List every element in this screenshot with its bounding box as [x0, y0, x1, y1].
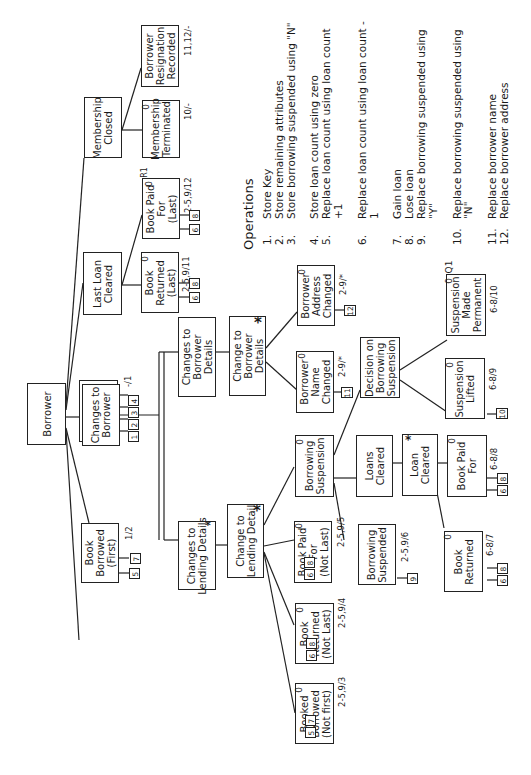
op-ref: 8 [189, 278, 200, 289]
op-ref: 6 [189, 224, 200, 235]
state-label: -/1 [123, 376, 133, 387]
op-ref: 11 [341, 387, 353, 398]
operation-item: 10.Replace borrowing suspended using "N" [452, 0, 476, 245]
operation-item: 5.Replace loan count using loan count +1 [321, 0, 345, 245]
node-membership-closed: Membership Closed [84, 97, 122, 158]
selection-marker: 0 [295, 439, 305, 445]
node-book-borrowed-first: Book Borrowed (First) [81, 523, 119, 583]
op-ref: 9 [407, 573, 418, 584]
state-label: 6-8/10 [489, 285, 499, 313]
op-ref: 2 [128, 419, 139, 430]
op-ref: 8 [306, 638, 317, 649]
state-label: 11,12/- [183, 26, 193, 56]
node-borrowing-suspended: Borrowing Suspended [358, 524, 396, 585]
iteration-marker: * [254, 316, 262, 331]
op-ref: 6 [497, 485, 508, 496]
operation-item: 2.Store remaining attributes [274, 0, 286, 245]
node-book-returned: Book Returned [444, 531, 483, 592]
node-changes-to-borrower-main: Changes to Borrower [82, 384, 120, 446]
state-label: 10/- [183, 103, 193, 120]
node-changes-to-borrower-details: Changes to Borrower Details [178, 317, 216, 397]
selection-marker: 0 [447, 438, 457, 444]
quit-marker: Q1 [444, 261, 454, 274]
resume-marker: R1 [140, 167, 149, 178]
op-ref: 8 [304, 557, 315, 568]
selection-marker: 0 [445, 362, 455, 368]
op-ref: 8 [497, 473, 508, 484]
selection-marker: 0 [294, 523, 304, 529]
operations-list: 1.Store Key 2.Store remaining attributes… [262, 0, 511, 245]
selection-marker: 0 [295, 607, 305, 613]
state-label: 6-8/8 [489, 448, 499, 470]
state-label: 6-8/7 [485, 534, 495, 556]
op-ref: 8 [497, 563, 508, 574]
state-label: 1/2 [124, 526, 134, 540]
op-ref: 1 [128, 431, 139, 442]
op-ref: 3 [128, 407, 139, 418]
state-label: 2-9/* [338, 274, 348, 295]
selection-marker: 0 [294, 687, 304, 693]
operations-title: Operations [241, 179, 256, 250]
selection-marker: 0 [444, 278, 454, 284]
state-label: 2-5,9/5 [336, 517, 346, 547]
state-label: 2-5,9/4 [337, 598, 347, 628]
op-ref: 6 [306, 650, 317, 661]
node-last-loan-cleared: Last Loan Cleared [83, 252, 122, 315]
selection-marker: 0 [144, 181, 154, 187]
op-ref: 5 [305, 727, 316, 738]
state-label: 2-9/* [337, 356, 347, 377]
node-book-paid-for-last: Book Paid For (Last) [142, 178, 180, 239]
iteration-marker: * [205, 518, 211, 533]
state-label: 2-5,9/12 [183, 177, 193, 213]
node-borrower: Borrower [27, 383, 66, 445]
node-decision-on-borrowing-suspension: Decision on Borrowing Suspension [360, 337, 400, 398]
operation-item: 3.Store borrowing suspended using "N" [286, 0, 298, 245]
op-ref: 4 [128, 395, 139, 406]
state-label: 6-8/9 [488, 368, 498, 390]
op-ref: 5 [129, 568, 140, 579]
state-label: 2-5,9/6 [400, 532, 410, 562]
selection-marker: 0 [443, 534, 453, 540]
node-book-paid-for: Book Paid For [447, 435, 487, 497]
op-ref: 12 [344, 305, 356, 316]
operation-item: 6.Replace loan count using loan count - … [357, 0, 381, 245]
operation-item: 9.Replace borrowing suspended using "Y" [416, 0, 440, 245]
iteration-marker: * [253, 504, 261, 519]
op-ref: 7 [305, 715, 316, 726]
selection-marker: 0 [140, 256, 150, 262]
op-ref: 10 [496, 408, 508, 419]
op-ref: 6 [304, 569, 315, 580]
selection-marker: 0 [297, 353, 307, 359]
selection-marker: 0 [141, 104, 151, 110]
node-loans-cleared: Loans Cleared [356, 435, 393, 497]
state-label: 2-5,9/3 [337, 677, 347, 707]
iteration-marker: * [405, 433, 411, 448]
op-ref: 6 [189, 292, 200, 303]
node-borrower-name-changed: Borrower Name Changed [296, 351, 334, 413]
operation-item: 12.Replace borrower address [499, 0, 511, 245]
op-ref: 6 [497, 575, 508, 586]
selection-marker: 0 [297, 269, 307, 275]
op-ref: 7 [130, 553, 141, 564]
node-borrower-resignation-recorded: Borrower Resignation Recorded [141, 25, 179, 87]
op-ref: 8 [189, 210, 200, 221]
